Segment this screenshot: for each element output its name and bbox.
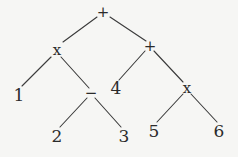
expression-tree-diagram: +x+1−4x2356	[0, 0, 238, 157]
operand-node-n2: 2	[52, 128, 63, 145]
operator-node-sub: −	[85, 86, 98, 101]
edge-mul_r-to-n5	[157, 94, 183, 122]
edge-sub-to-n2	[60, 98, 87, 127]
edge-sub-to-n3	[95, 98, 121, 127]
operator-node-mul_r: x	[183, 81, 191, 96]
operand-node-n6: 6	[214, 123, 225, 140]
edge-add_r-to-n4	[119, 51, 145, 80]
edge-mul_r-to-n6	[191, 94, 217, 122]
operand-node-n4: 4	[111, 80, 122, 97]
edge-root-to-mul_l	[63, 17, 97, 42]
operand-node-n1: 1	[14, 87, 25, 104]
operator-node-root: +	[97, 5, 110, 20]
operator-node-mul_l: x	[53, 43, 61, 58]
operator-node-add_r: +	[144, 39, 157, 54]
edge-add_r-to-mul_r	[154, 51, 183, 82]
operand-node-n3: 3	[119, 128, 130, 145]
edge-mul_l-to-n1	[22, 57, 51, 86]
operand-node-n5: 5	[149, 123, 160, 140]
edge-root-to-add_r	[110, 17, 146, 41]
